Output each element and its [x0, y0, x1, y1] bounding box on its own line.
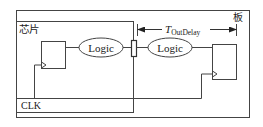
- output-pad: [132, 41, 137, 57]
- board-label: 板: [233, 11, 243, 23]
- chip-label: 芯片: [19, 23, 39, 35]
- timing-label: TOutDelay: [165, 23, 201, 37]
- left-logic-label: Logic: [88, 42, 114, 54]
- right-logic-label: Logic: [157, 42, 183, 54]
- timing-diagram: Logic Logic TOutDelay 芯片 板 CLK: [0, 0, 263, 127]
- clock-label: CLK: [21, 100, 42, 111]
